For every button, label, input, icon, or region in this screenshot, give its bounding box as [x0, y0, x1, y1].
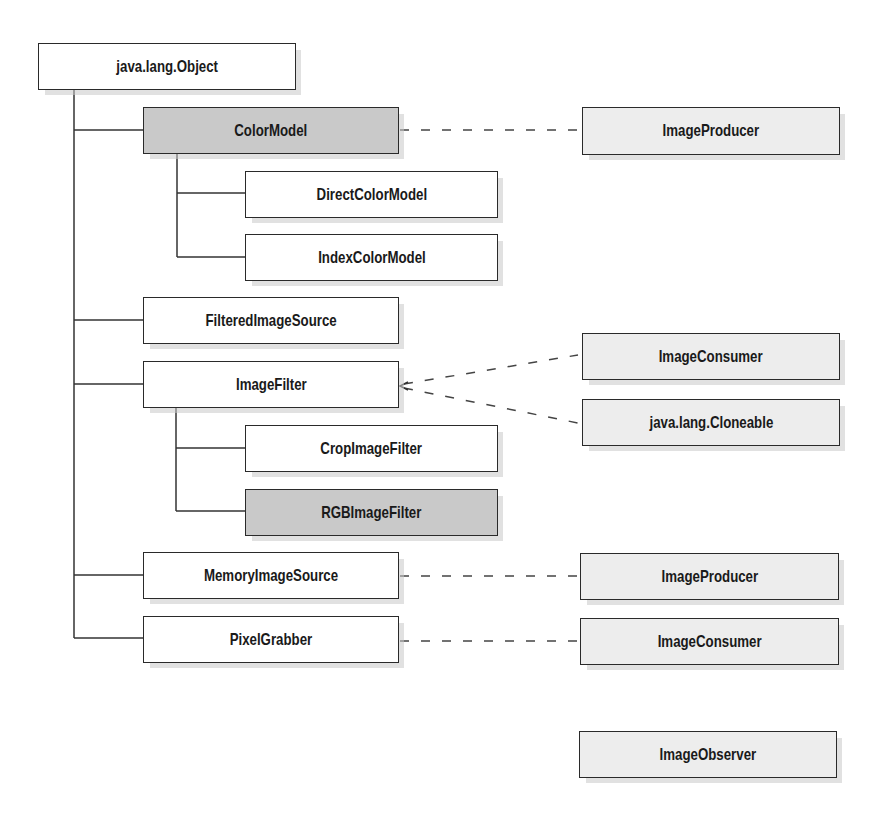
- implements-image-filter-image-consumer: [404, 355, 578, 384]
- node-rgb-image-filter: RGBImageFilter: [245, 489, 498, 536]
- arrowhead-icon: [400, 382, 408, 390]
- node-label: ImageFilter: [236, 375, 307, 395]
- node-label: PixelGrabber: [230, 630, 313, 650]
- node-java-lang-object: java.lang.Object: [38, 43, 296, 90]
- node-label: MemoryImageSource: [204, 566, 338, 586]
- node-label: java.lang.Object: [116, 57, 218, 77]
- node-label: ImageProducer: [661, 567, 758, 587]
- node-crop-image-filter: CropImageFilter: [245, 425, 498, 472]
- node-color-model: ColorModel: [143, 107, 399, 154]
- node-label: java.lang.Cloneable: [649, 413, 773, 433]
- node-image-producer: ImageProducer: [582, 107, 840, 155]
- node-label: ColorModel: [235, 121, 308, 141]
- node-label: ImageProducer: [663, 121, 760, 141]
- node-image-producer-2: ImageProducer: [580, 553, 839, 600]
- node-label: RGBImageFilter: [321, 503, 421, 523]
- node-filtered-image-source: FilteredImageSource: [143, 297, 399, 344]
- node-index-color-model: IndexColorModel: [245, 234, 498, 281]
- node-image-consumer: ImageConsumer: [582, 333, 840, 380]
- node-memory-image-source: MemoryImageSource: [143, 552, 399, 599]
- node-label: ImageConsumer: [659, 347, 763, 367]
- node-image-consumer-2: ImageConsumer: [580, 618, 839, 665]
- class-hierarchy-diagram: java.lang.Object ColorModel DirectColorM…: [0, 0, 890, 826]
- node-direct-color-model: DirectColorModel: [245, 171, 498, 218]
- node-image-observer: ImageObserver: [579, 731, 837, 778]
- node-label: CropImageFilter: [321, 439, 423, 459]
- node-label: ImageObserver: [660, 745, 757, 765]
- node-label: IndexColorModel: [318, 248, 426, 268]
- node-image-filter: ImageFilter: [143, 361, 399, 408]
- implements-image-filter-cloneable: [404, 388, 578, 423]
- node-java-lang-cloneable: java.lang.Cloneable: [582, 399, 840, 446]
- node-label: ImageConsumer: [658, 632, 762, 652]
- node-label: DirectColorModel: [316, 185, 427, 205]
- node-label: FilteredImageSource: [205, 311, 336, 331]
- node-pixel-grabber: PixelGrabber: [143, 616, 399, 663]
